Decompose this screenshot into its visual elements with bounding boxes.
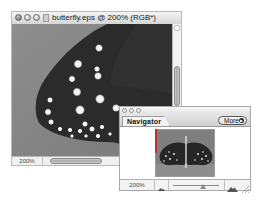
- zoom-out-button[interactable]: [154, 180, 169, 190]
- more-button[interactable]: More ▶: [218, 116, 247, 125]
- small-mountain-icon: [154, 184, 168, 194]
- close-icon[interactable]: [15, 14, 22, 21]
- zoom-in-button[interactable]: [224, 180, 239, 190]
- document-title: butterfly.eps @ 200% (RGB*): [52, 13, 156, 23]
- document-icon[interactable]: [43, 14, 49, 22]
- triangle-right-icon: ▶: [239, 118, 244, 123]
- navigator-zoom-bar: 200%: [120, 179, 250, 190]
- horizontal-scroll-thumb[interactable]: [50, 158, 102, 164]
- navigator-zoom-field[interactable]: 200%: [120, 180, 155, 190]
- navigator-tab-bar: Navigator More ▶: [120, 115, 250, 127]
- navigator-title-bar[interactable]: [120, 107, 250, 115]
- zoom-icon[interactable]: [33, 14, 40, 21]
- minimize-icon[interactable]: [129, 108, 134, 113]
- zoom-slider-knob[interactable]: [200, 184, 206, 189]
- tab-navigator[interactable]: Navigator: [122, 116, 170, 126]
- scroll-up-arrow-icon[interactable]: [174, 25, 180, 31]
- zoom-icon[interactable]: [136, 108, 141, 113]
- more-button-label: More: [224, 117, 239, 124]
- document-zoom-field[interactable]: 200%: [12, 157, 43, 165]
- resize-grip-icon[interactable]: [240, 180, 250, 190]
- navigator-preview-area: [120, 127, 250, 182]
- large-mountain-icon: [225, 184, 239, 194]
- navigator-thumbnail[interactable]: [155, 129, 215, 177]
- vertical-scroll-thumb[interactable]: [174, 66, 180, 106]
- navigator-view-box[interactable]: [155, 129, 157, 153]
- navigator-palette: Navigator More ▶: [119, 106, 251, 191]
- minimize-icon[interactable]: [24, 14, 31, 21]
- close-icon[interactable]: [122, 108, 127, 113]
- zoom-slider-track[interactable]: [173, 185, 219, 186]
- butterfly-thumbnail-image: [156, 130, 215, 177]
